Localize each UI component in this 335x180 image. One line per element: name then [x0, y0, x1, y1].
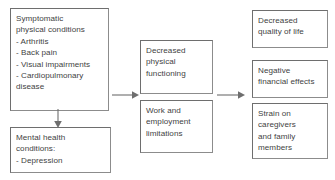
node-decreased-physical-functioning[interactable]: Decreased physical functioning: [140, 40, 213, 94]
node-work-and-employment-limitations[interactable]: Work and employment limitations: [140, 100, 213, 153]
flow-diagram-canvas: Symptomatic physical conditions - Arthri…: [0, 0, 335, 180]
node-symptomatic-physical-conditions[interactable]: Symptomatic physical conditions - Arthri…: [10, 8, 109, 111]
arrow-right-icon-middle-to-outcomes: [215, 86, 247, 104]
arrow-right-icon-conditions-to-functioning: [110, 86, 140, 104]
node-negative-financial-effects[interactable]: Negative financial effects: [252, 60, 328, 98]
arrow-down-icon-physical-to-mental: [49, 109, 67, 129]
node-decreased-quality-of-life[interactable]: Decreased quality of life: [252, 10, 328, 48]
node-mental-health-conditions[interactable]: Mental health conditions: - Depression: [10, 127, 111, 173]
node-strain-on-caregivers[interactable]: Strain on caregivers and family members: [252, 103, 328, 159]
